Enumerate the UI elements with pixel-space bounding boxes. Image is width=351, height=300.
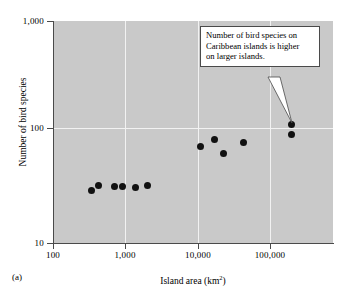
x-tick-100 — [53, 243, 54, 249]
data-point — [111, 183, 118, 190]
gridline-x-10000 — [198, 21, 199, 243]
x-ticklabel-10000: 10,000 — [174, 251, 222, 260]
data-point — [220, 150, 227, 157]
y-tick-1000 — [47, 21, 53, 22]
data-point — [119, 183, 126, 190]
x-axis-title-text: Island area (km — [160, 276, 219, 286]
y-axis-title: Number of bird species — [18, 52, 28, 192]
x-ticklabel-1000: 1,000 — [103, 251, 147, 260]
y-ticklabel-10: 10 — [35, 239, 44, 248]
x-axis-line — [53, 243, 334, 244]
x-ticklabel-100: 100 — [33, 251, 73, 260]
x-ticklabel-100000: 100,000 — [244, 251, 296, 260]
x-tick-1000 — [125, 243, 126, 249]
x-tick-10000 — [198, 243, 199, 249]
data-point — [132, 184, 139, 191]
data-point — [144, 182, 151, 189]
annotation-callout: Number of bird species on Caribbean isla… — [200, 26, 320, 67]
annotation-line-3: on larger islands. — [206, 51, 315, 62]
y-ticklabel-100: 100 — [30, 124, 44, 133]
data-point-annotated — [288, 121, 295, 128]
data-point — [240, 139, 247, 146]
gridline-x-1000 — [125, 21, 126, 243]
y-tick-100 — [47, 128, 53, 129]
gridline-y-100 — [53, 128, 333, 129]
annotation-line-1: Number of bird species on — [206, 30, 315, 41]
figure-panel: 1,000 100 10 100 1,000 10,000 100,000 Nu… — [0, 0, 351, 300]
y-ticklabel-1000: 1,000 — [23, 17, 44, 26]
data-point — [88, 187, 95, 194]
y-axis-line — [53, 21, 54, 244]
data-point — [211, 136, 218, 143]
x-axis-title: Island area (km2) — [53, 272, 333, 287]
data-point — [197, 143, 204, 150]
data-point — [95, 182, 102, 189]
panel-tag: (a) — [12, 272, 22, 282]
annotation-line-2: Caribbean islands is higher — [206, 41, 315, 52]
x-axis-title-suffix: ) — [223, 276, 226, 286]
data-point — [288, 131, 295, 138]
x-tick-100000 — [270, 243, 271, 249]
